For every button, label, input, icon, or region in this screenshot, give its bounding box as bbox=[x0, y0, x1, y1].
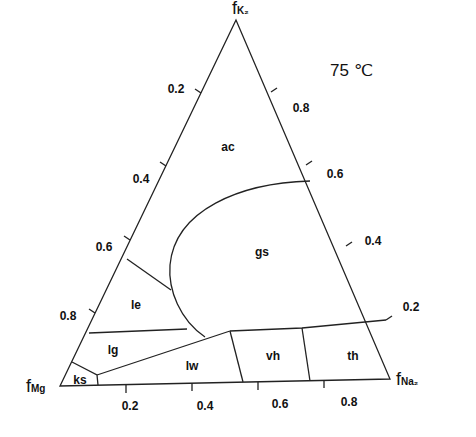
region-th: th bbox=[347, 349, 358, 363]
left-ticks bbox=[89, 89, 201, 313]
region-vh: vh bbox=[266, 349, 280, 363]
tick-bottom-0.8: 0.8 bbox=[341, 395, 358, 409]
vertex-left-label: fMg bbox=[26, 376, 45, 396]
region-ac: ac bbox=[221, 140, 235, 154]
region-le: le bbox=[131, 298, 141, 312]
tick-bottom-0.4: 0.4 bbox=[197, 399, 214, 413]
phase-boundaries bbox=[72, 181, 386, 385]
tick-bottom-0.2: 0.2 bbox=[122, 399, 139, 413]
tick-left-0.2: 0.2 bbox=[168, 82, 185, 96]
region-lw: lw bbox=[186, 359, 199, 373]
region-ks: ks bbox=[73, 373, 87, 387]
tick-right-0.2: 0.2 bbox=[403, 300, 420, 314]
tick-right-0.4: 0.4 bbox=[365, 234, 382, 248]
tick-left-0.4: 0.4 bbox=[133, 172, 150, 186]
right-ticks bbox=[271, 88, 392, 320]
vertex-top-label: fK₂ bbox=[232, 0, 249, 18]
tick-left-0.8: 0.8 bbox=[60, 309, 77, 323]
tick-right-0.6: 0.6 bbox=[327, 167, 344, 181]
tick-bottom-0.6: 0.6 bbox=[272, 397, 289, 411]
temperature-title: 75 ℃ bbox=[330, 61, 373, 80]
tick-right-0.8: 0.8 bbox=[293, 101, 310, 115]
ternary-diagram: ac gs le lg lw vh th ks 0.2 0.4 0.6 0.8 … bbox=[0, 0, 476, 437]
region-gs: gs bbox=[255, 245, 269, 259]
region-lg: lg bbox=[108, 343, 119, 357]
tick-left-0.6: 0.6 bbox=[96, 240, 113, 254]
vertex-right-label: fNa₂ bbox=[396, 369, 418, 389]
